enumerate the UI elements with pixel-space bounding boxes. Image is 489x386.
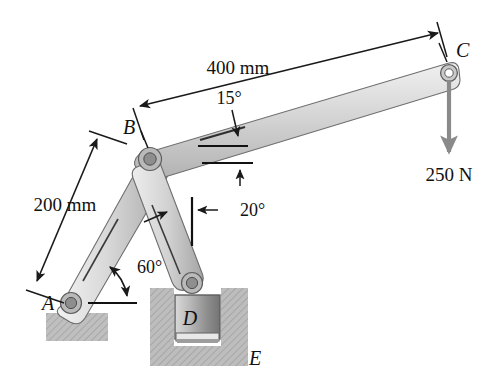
piston-d <box>175 295 220 343</box>
label-200mm: 200 mm <box>34 194 97 215</box>
label-point-a: A <box>40 292 55 314</box>
label-angle-15: 15° <box>216 88 241 108</box>
leader-b-label <box>141 131 148 148</box>
mechanism-figure: 400 mm 200 mm 15° 20° 60° A B C D E 250 … <box>0 0 489 386</box>
label-400mm: 400 mm <box>207 57 270 78</box>
mechanism-drawing: 400 mm 200 mm 15° 20° 60° A B C D E 250 … <box>0 0 489 386</box>
joint-d-pin <box>182 273 203 294</box>
joint-c-pin <box>441 65 458 82</box>
label-angle-60: 60° <box>137 257 162 277</box>
label-angle-20: 20° <box>240 200 265 220</box>
label-point-b: B <box>123 116 135 138</box>
label-point-e: E <box>248 347 261 369</box>
label-point-d: D <box>182 307 198 329</box>
label-force-250n: 250 N <box>426 164 473 185</box>
label-point-c: C <box>456 39 470 61</box>
joint-b-pin <box>139 148 162 171</box>
member-bc <box>135 63 460 178</box>
